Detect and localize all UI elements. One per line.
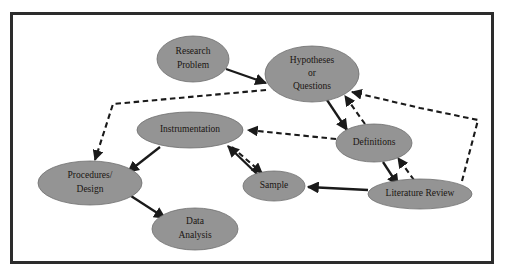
node-label-line: Questions xyxy=(293,81,331,91)
node-data-analysis[interactable]: DataAnalysis xyxy=(152,208,238,250)
node-label: Sample xyxy=(260,180,289,190)
research-process-diagram: ResearchProblemHypothesesorQuestionsInst… xyxy=(0,0,506,278)
node-label-line: Data xyxy=(186,217,205,227)
node-hypotheses-or-questions[interactable]: HypothesesorQuestions xyxy=(265,46,359,102)
node-label-line: Design xyxy=(77,184,104,194)
node-label-line: Definitions xyxy=(353,137,396,147)
node-label-line: Procedures/ xyxy=(68,171,113,181)
node-label: Definitions xyxy=(353,137,396,147)
node-label-line: Research xyxy=(176,47,211,57)
node-label: Instrumentation xyxy=(160,124,220,134)
node-label-line: Analysis xyxy=(178,230,212,240)
node-label-line: Sample xyxy=(260,180,289,190)
node-sample[interactable]: Sample xyxy=(243,171,305,201)
diagram-frame xyxy=(12,14,493,263)
node-literature-review[interactable]: Literature Review xyxy=(368,179,472,209)
node-definitions[interactable]: Definitions xyxy=(336,124,412,162)
node-label-line: or xyxy=(308,68,317,78)
node-label: Literature Review xyxy=(386,188,455,198)
node-label-line: Hypotheses xyxy=(290,55,335,65)
node-procedures-design[interactable]: Procedures/Design xyxy=(38,161,142,205)
node-research-problem[interactable]: ResearchProblem xyxy=(157,36,229,82)
node-label-line: Problem xyxy=(177,60,210,70)
diagram-canvas: ResearchProblemHypothesesorQuestionsInst… xyxy=(0,0,506,278)
node-label-line: Instrumentation xyxy=(160,124,220,134)
node-instrumentation[interactable]: Instrumentation xyxy=(137,112,243,148)
node-label-line: Literature Review xyxy=(386,188,455,198)
frame-border xyxy=(12,14,493,263)
